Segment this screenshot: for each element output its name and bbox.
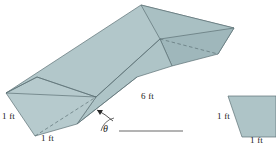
geometry-figure: 1 ft 1 ft 6 ft θ 1 ft 1 ft bbox=[0, 0, 276, 150]
label-length: 6 ft bbox=[141, 92, 154, 101]
angle-leader-arrow bbox=[97, 110, 113, 121]
label-angle-theta: θ bbox=[103, 124, 108, 134]
figure-canvas bbox=[0, 0, 276, 150]
label-left-height: 1 ft bbox=[2, 112, 15, 121]
label-cross-section-left: 1 ft bbox=[217, 112, 230, 121]
trough-prism bbox=[6, 5, 234, 136]
label-bottom-width: 1 ft bbox=[41, 134, 54, 143]
cross-section-trapezoid bbox=[228, 96, 276, 137]
cross-section-figure bbox=[228, 96, 276, 137]
label-cross-section-bottom: 1 ft bbox=[250, 136, 263, 145]
